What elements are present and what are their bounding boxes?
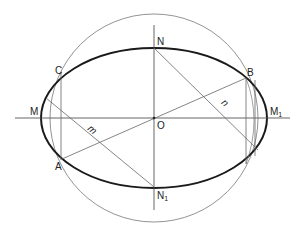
label-a: A: [55, 162, 62, 172]
label-c: C: [55, 66, 62, 76]
line-m: [46, 98, 154, 187]
label-b: B: [247, 68, 254, 78]
ellipse-construction-diagram: [0, 0, 302, 238]
label-n1: N1: [157, 191, 168, 202]
label-m: M: [30, 107, 38, 117]
label-n: N: [157, 37, 164, 47]
center-point: [153, 117, 156, 120]
label-o: O: [157, 121, 165, 131]
label-m1: M1: [270, 107, 282, 118]
